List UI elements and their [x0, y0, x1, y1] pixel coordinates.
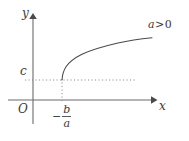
math-figure: y x O c a>0 − b a: [0, 0, 189, 141]
x-axis-arrowhead: [151, 96, 158, 104]
y-axis-label: y: [22, 7, 29, 19]
fraction-denominator: a: [62, 118, 71, 129]
condition-value: 0: [165, 18, 173, 31]
condition-operator: >: [155, 18, 165, 31]
y-axis-arrowhead: [29, 13, 37, 19]
x-axis-label: x: [159, 100, 166, 112]
fraction-numerator: b: [62, 104, 71, 115]
fraction: b a: [62, 104, 71, 129]
origin-label: O: [18, 103, 28, 115]
function-curve: [62, 38, 152, 80]
condition-variable: a: [148, 18, 155, 31]
x-intercept-tick-label: − b a: [52, 104, 71, 129]
fraction-minus-sign: −: [52, 111, 61, 122]
y-intercept-label: c: [20, 65, 27, 77]
condition-annotation: a>0: [148, 19, 172, 30]
